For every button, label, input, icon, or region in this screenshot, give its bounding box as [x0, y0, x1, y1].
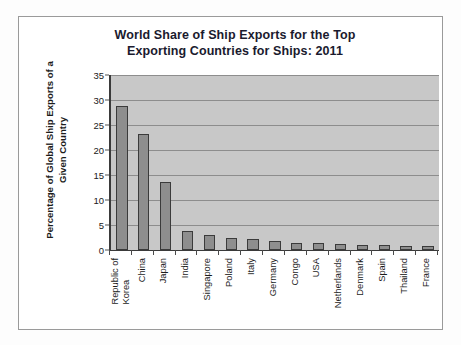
y-axis-ticks: 05101520253035 — [85, 75, 109, 250]
x-axis-label-italy: Italy — [246, 258, 257, 275]
bar-singapore[interactable] — [204, 235, 215, 250]
x-axis-tick-mark — [218, 250, 219, 255]
x-axis-label-slot: Republic ofKorea — [109, 258, 131, 345]
x-axis-labels: Republic ofKoreaChinaJapanIndiaSingapore… — [109, 258, 437, 345]
x-axis-label-india: India — [180, 258, 191, 278]
x-axis-label-line: Netherlands — [333, 258, 344, 308]
x-axis-label-slot: Netherlands — [328, 258, 350, 345]
x-axis-label-congo: Congo — [290, 258, 301, 285]
x-axis-label-line: Republic of — [110, 258, 121, 305]
bar-japan[interactable] — [160, 182, 171, 251]
bar-slot — [242, 75, 264, 250]
y-axis-tick-label: 30 — [93, 95, 104, 106]
x-axis-label-poland: Poland — [224, 258, 235, 287]
x-axis-label-japan: Japan — [158, 258, 169, 283]
bar-germany[interactable] — [269, 241, 280, 251]
bar-republic-of-korea[interactable] — [116, 106, 127, 250]
x-axis-label-line: China — [137, 258, 148, 282]
bar-slot — [133, 75, 155, 250]
bar-usa[interactable] — [313, 243, 324, 250]
chart-title-line-2: Exporting Countries for Ships: 2011 — [65, 43, 405, 59]
bar-slot — [264, 75, 286, 250]
bar-slot — [220, 75, 242, 250]
y-axis-tick-label: 0 — [99, 245, 104, 256]
x-axis-label-slot: Spain — [371, 258, 393, 345]
x-axis-label-singapore: Singapore — [202, 258, 213, 300]
x-axis-tick-mark — [175, 250, 176, 255]
x-axis-tick-mark — [240, 250, 241, 255]
x-axis-label-slot: Poland — [218, 258, 240, 345]
x-axis-label-line: Germany — [268, 258, 279, 296]
x-axis-label-france: France — [421, 258, 432, 287]
x-axis-label-china: China — [137, 258, 148, 282]
scanned-page: World Share of Ship Exports for the Top … — [0, 0, 461, 345]
y-axis-tick-label: 20 — [93, 145, 104, 156]
x-axis-label-denmark: Denmark — [355, 258, 366, 296]
x-axis-label-line: Poland — [224, 258, 235, 287]
chart-frame: World Share of Ship Exports for the Top … — [18, 16, 443, 330]
plot-area — [109, 75, 439, 251]
x-axis-tick-mark — [328, 250, 329, 255]
bar-slot — [286, 75, 308, 250]
y-axis-tick-label: 15 — [93, 170, 104, 181]
x-axis-label-line: Spain — [377, 258, 388, 282]
x-axis-label-slot: France — [415, 258, 437, 345]
x-axis-tick-mark — [131, 250, 132, 255]
y-axis-title-line-2: Given Country — [56, 45, 69, 255]
y-axis-tick-label: 25 — [93, 120, 104, 131]
bar-china[interactable] — [138, 134, 149, 251]
y-axis-tick-label: 5 — [99, 220, 104, 231]
bar-slot — [111, 75, 133, 250]
chart-title: World Share of Ship Exports for the Top … — [65, 27, 405, 59]
bar-italy[interactable] — [247, 239, 258, 251]
bar-congo[interactable] — [291, 243, 302, 251]
x-axis-label-slot: Congo — [284, 258, 306, 345]
x-axis-label-line: France — [421, 258, 432, 287]
bar-slot — [308, 75, 330, 250]
chart-title-line-1: World Share of Ship Exports for the Top — [65, 27, 405, 43]
x-axis-label-slot: Italy — [240, 258, 262, 345]
x-axis-label-usa: USA — [311, 258, 322, 277]
x-axis-label-line: Italy — [246, 258, 257, 275]
bar-slot — [177, 75, 199, 250]
x-axis-label-line: USA — [311, 258, 322, 277]
x-axis-label-slot: Germany — [262, 258, 284, 345]
x-axis-label-line: Denmark — [355, 258, 366, 296]
x-axis-tick-mark — [306, 250, 307, 255]
bar-poland[interactable] — [226, 238, 237, 251]
bar-slot — [198, 75, 220, 250]
bar-slot — [351, 75, 373, 250]
y-axis-tick-label: 10 — [93, 195, 104, 206]
bar-slot — [395, 75, 417, 250]
x-axis-label-line: Congo — [290, 258, 301, 285]
bar-slot — [155, 75, 177, 250]
x-axis-label-line: Singapore — [202, 258, 213, 300]
x-axis-tick-mark — [350, 250, 351, 255]
x-axis-tick-mark — [415, 250, 416, 255]
x-axis-label-line: Japan — [158, 258, 169, 283]
x-axis-label-slot: USA — [306, 258, 328, 345]
x-axis-tick-mark — [109, 250, 110, 255]
x-axis-label-line: Korea — [120, 258, 131, 305]
y-axis-title-line-1: Percentage of Global Ship Exports of a — [43, 45, 56, 255]
x-axis-label-slot: Thailand — [393, 258, 415, 345]
bar-series — [111, 75, 439, 250]
x-axis-label-thailand: Thailand — [399, 258, 410, 294]
x-axis-label-netherlands: Netherlands — [333, 258, 344, 308]
x-axis-label-slot: India — [175, 258, 197, 345]
x-axis-tick-mark — [437, 250, 438, 255]
bar-slot — [417, 75, 439, 250]
x-axis-tick-mark — [153, 250, 154, 255]
bar-india[interactable] — [182, 231, 193, 250]
x-axis-label-slot: China — [131, 258, 153, 345]
y-axis-title: Percentage of Global Ship Exports of a G… — [43, 45, 69, 255]
x-axis-tick-mark — [262, 250, 263, 255]
x-axis-label-slot: Singapore — [196, 258, 218, 345]
x-axis-tick-mark — [284, 250, 285, 255]
x-axis-ticks — [109, 250, 437, 258]
x-axis-tick-mark — [371, 250, 372, 255]
y-axis-tick-label: 35 — [93, 70, 104, 81]
plot-area-wrapper: 05101520253035 — [85, 75, 437, 265]
x-axis-tick-mark — [393, 250, 394, 255]
x-axis-label-slot: Japan — [153, 258, 175, 345]
